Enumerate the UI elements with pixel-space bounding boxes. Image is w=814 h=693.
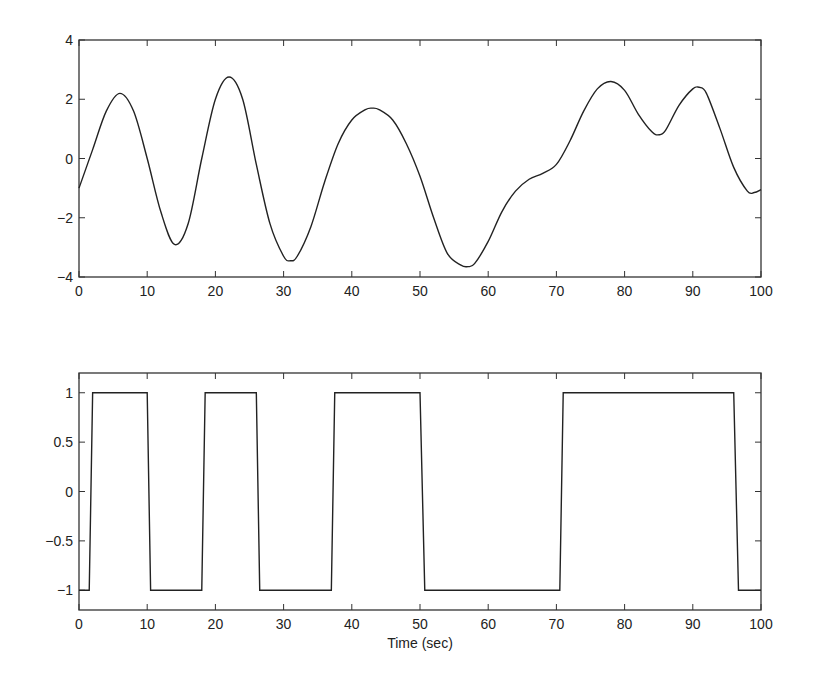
x-tick-label: 10 xyxy=(139,616,155,632)
y-tick-label: −4 xyxy=(57,269,73,285)
x-tick-label: 100 xyxy=(749,616,773,632)
series-line xyxy=(79,77,761,267)
x-tick-label: 80 xyxy=(617,283,633,299)
bottom-plot: 0102030405060708090100−1−0.500.51Time (s… xyxy=(45,373,773,651)
axes-frame xyxy=(79,40,761,277)
x-tick-label: 30 xyxy=(276,283,292,299)
x-tick-label: 20 xyxy=(208,616,224,632)
y-tick-label: 0.5 xyxy=(54,434,74,450)
top-plot: 0102030405060708090100−4−2024 xyxy=(57,32,773,299)
x-tick-label: 60 xyxy=(480,616,496,632)
x-tick-label: 70 xyxy=(549,283,565,299)
x-tick-label: 20 xyxy=(208,283,224,299)
figure: 0102030405060708090100−4−2024 0102030405… xyxy=(0,0,814,693)
x-tick-label: 90 xyxy=(685,616,701,632)
x-tick-label: 40 xyxy=(344,616,360,632)
x-tick-label: 90 xyxy=(685,283,701,299)
y-tick-label: 1 xyxy=(65,385,73,401)
x-tick-label: 30 xyxy=(276,616,292,632)
x-axis-label: Time (sec) xyxy=(387,635,453,651)
x-tick-label: 60 xyxy=(480,283,496,299)
x-tick-label: 50 xyxy=(412,283,428,299)
y-tick-label: −2 xyxy=(57,210,73,226)
y-tick-label: 0 xyxy=(65,484,73,500)
y-tick-label: −0.5 xyxy=(45,533,73,549)
x-tick-label: 0 xyxy=(75,616,83,632)
x-tick-label: 0 xyxy=(75,283,83,299)
y-tick-label: 4 xyxy=(65,32,73,48)
x-tick-label: 70 xyxy=(549,616,565,632)
x-tick-label: 100 xyxy=(749,283,773,299)
series-line xyxy=(79,393,761,591)
y-tick-label: −1 xyxy=(57,582,73,598)
x-tick-label: 80 xyxy=(617,616,633,632)
x-tick-label: 40 xyxy=(344,283,360,299)
x-tick-label: 10 xyxy=(139,283,155,299)
y-tick-label: 2 xyxy=(65,91,73,107)
x-tick-label: 50 xyxy=(412,616,428,632)
y-tick-label: 0 xyxy=(65,151,73,167)
